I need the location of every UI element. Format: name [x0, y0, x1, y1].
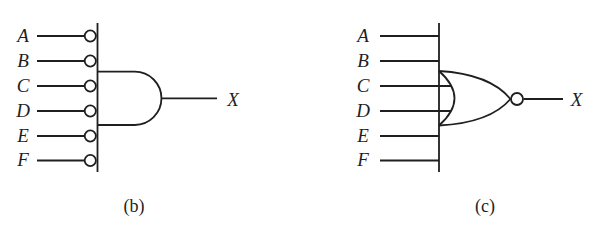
and-gate-body: [98, 72, 162, 125]
input-label-a: A: [355, 25, 369, 46]
inverter-bubble-b: [85, 55, 96, 66]
inverter-bubble-f: [85, 155, 96, 166]
inverter-bubble-c: [85, 80, 96, 91]
input-label-c: C: [17, 75, 30, 96]
output-label-c: X: [570, 89, 584, 110]
input-label-d: D: [355, 100, 370, 121]
input-label-e: E: [16, 125, 29, 146]
input-label-b: B: [357, 50, 369, 71]
output-label-b: X: [226, 89, 240, 110]
input-label-f: F: [16, 149, 29, 170]
schematic-canvas: A B C D E F X: [0, 0, 601, 236]
nor-gate-back-curve: [439, 71, 455, 126]
input-label-b: B: [17, 50, 29, 71]
inverter-bubble-e: [85, 130, 96, 141]
diagram-c: A B C D E F X (c): [355, 23, 584, 217]
input-label-c: C: [357, 75, 370, 96]
output-inverter-bubble: [511, 93, 523, 105]
caption-c: (c): [475, 196, 495, 217]
inverter-bubble-d: [85, 105, 96, 116]
input-label-a: A: [15, 25, 29, 46]
logic-gate-figure: A B C D E F X: [0, 0, 601, 236]
inverter-bubble-a: [85, 30, 96, 41]
input-label-f: F: [356, 149, 369, 170]
input-label-e: E: [356, 125, 369, 146]
caption-b: (b): [124, 196, 145, 217]
nor-gate-top-curve: [439, 71, 511, 99]
diagram-b: A B C D E F X: [15, 23, 240, 217]
input-label-d: D: [15, 100, 30, 121]
